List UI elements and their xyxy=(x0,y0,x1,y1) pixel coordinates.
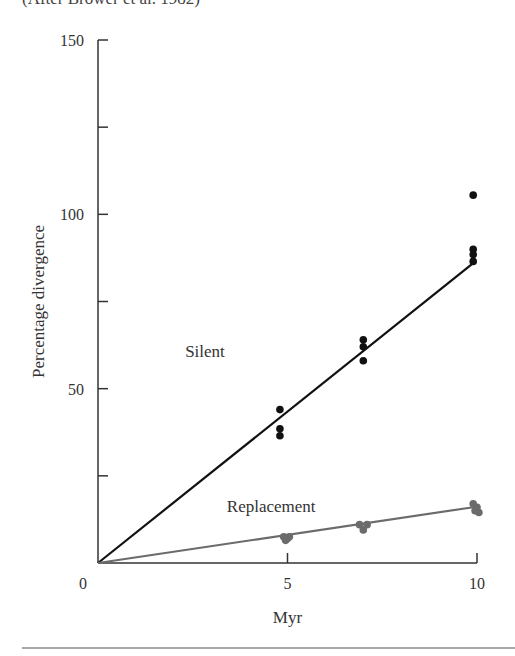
x-tick-label: 0 xyxy=(79,575,87,592)
data-point xyxy=(360,526,368,534)
data-point xyxy=(469,191,477,199)
figure-caption: (After Brower et al. 1982) xyxy=(22,0,200,8)
data-point xyxy=(360,357,368,365)
data-point xyxy=(469,251,477,259)
data-point xyxy=(360,343,368,351)
fit-line-silent xyxy=(98,263,473,563)
y-axis-title: Percentage divergence xyxy=(29,225,48,378)
x-tick-label: 10 xyxy=(469,575,485,592)
divergence-chart: (After Brower et al. 1982) 501001500510 … xyxy=(0,0,515,656)
x-tick-label: 5 xyxy=(284,575,292,592)
data-point xyxy=(276,425,284,433)
data-point xyxy=(475,509,483,517)
y-tick-label: 150 xyxy=(60,32,84,49)
x-axis-title: Myr xyxy=(273,608,303,627)
data-point xyxy=(276,406,284,414)
data-point xyxy=(360,336,368,344)
y-tick-label: 50 xyxy=(68,381,84,398)
data-point xyxy=(282,537,290,545)
labels-layer: MyrPercentage divergenceSilentReplacemen… xyxy=(29,225,316,627)
series-label-replacement: Replacement xyxy=(227,497,316,516)
data-point xyxy=(469,258,477,266)
series-label-silent: Silent xyxy=(185,342,225,361)
y-tick-label: 100 xyxy=(60,206,84,223)
data-point xyxy=(276,432,284,440)
